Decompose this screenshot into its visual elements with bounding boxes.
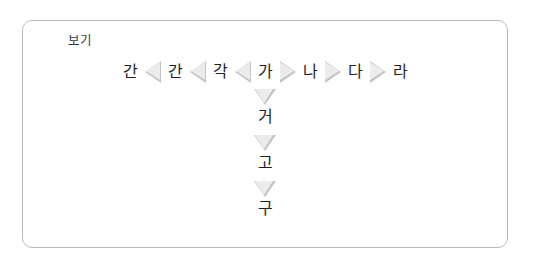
horizontal-sequence: 간 간 각 가 나 다 라 [23,61,507,83]
triangle-left-icon [235,61,251,83]
syllable-cell: 간 [168,63,183,81]
syllable-cell: 고 [258,154,273,172]
diagram-page: 보기 간 간 각 가 나 다 라 거 고 구 [0,0,540,275]
syllable-cell: 거 [258,108,273,126]
triangle-down-icon [254,89,276,105]
example-box: 보기 간 간 각 가 나 다 라 거 고 구 [22,20,508,248]
triangle-left-icon [145,61,161,83]
triangle-right-icon [370,61,386,83]
syllable-cell: 각 [213,63,228,81]
syllable-cell: 라 [393,63,408,81]
syllable-cell: 가 [258,63,273,81]
triangle-right-icon [325,61,341,83]
vertical-sequence: 거 고 구 [23,87,507,225]
syllable-cell: 간 [123,63,138,81]
triangle-down-icon [254,135,276,151]
syllable-cell: 구 [258,200,273,218]
triangle-right-icon [280,61,296,83]
syllable-cell: 나 [303,63,318,81]
triangle-down-icon [254,181,276,197]
box-legend-label: 보기 [61,33,100,49]
triangle-left-icon [190,61,206,83]
syllable-cell: 다 [348,63,363,81]
